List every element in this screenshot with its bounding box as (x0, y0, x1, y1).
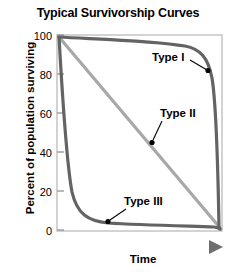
series-label-type-3: Type III (124, 195, 163, 207)
marker-dot-type-1 (205, 68, 210, 73)
time-axis-arrow-icon (63, 240, 223, 254)
marker-dot-type-2 (149, 140, 154, 145)
survivorship-curves-figure: Typical Survivorship Curves Percent of p… (0, 0, 236, 272)
marker-dot-type-3 (105, 219, 110, 224)
plot-area (0, 0, 236, 272)
series-label-type-2: Type II (160, 107, 196, 119)
x-axis-label: Time (62, 253, 224, 265)
series-label-type-1: Type I (152, 51, 184, 63)
